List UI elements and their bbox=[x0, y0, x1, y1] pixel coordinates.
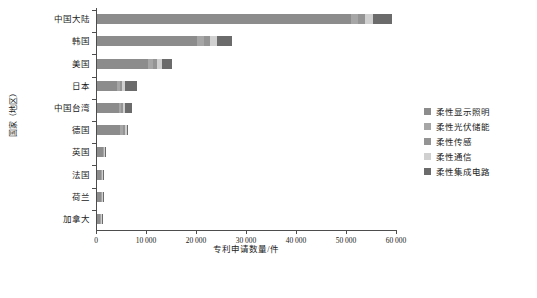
legend-swatch-icon bbox=[424, 153, 431, 160]
x-axis-tick bbox=[296, 230, 297, 234]
bar-segment bbox=[97, 125, 120, 135]
y-axis-tick bbox=[92, 143, 96, 144]
bar-segment bbox=[217, 36, 233, 46]
legend-swatch-icon bbox=[424, 168, 431, 175]
legend-swatch-icon bbox=[424, 108, 431, 115]
x-axis-tick bbox=[396, 230, 397, 234]
bar-segment bbox=[373, 14, 392, 24]
bar-segment bbox=[103, 192, 104, 202]
y-axis-category-label: 德国 bbox=[72, 125, 90, 135]
legend-item[interactable]: 柔性通信 bbox=[424, 149, 490, 164]
bar-row bbox=[97, 81, 137, 91]
bar-segment bbox=[125, 103, 132, 113]
bar-segment bbox=[97, 103, 119, 113]
y-axis-tick bbox=[92, 99, 96, 100]
x-axis-tick bbox=[146, 230, 147, 234]
legend-label: 柔性集成电路 bbox=[436, 167, 490, 177]
bar-segment bbox=[365, 14, 373, 24]
bar-row bbox=[97, 170, 103, 180]
bar-row bbox=[97, 214, 102, 224]
y-axis-category-label: 中国大陆 bbox=[54, 14, 90, 24]
bar-segment bbox=[197, 36, 205, 46]
y-axis-tick bbox=[92, 54, 96, 55]
y-axis-category-label: 英国 bbox=[72, 147, 90, 157]
x-axis-title: 专利申请数量/件 bbox=[96, 244, 396, 254]
bar-row bbox=[97, 192, 103, 202]
y-axis-tick bbox=[92, 77, 96, 78]
y-axis-title: 国家（地区） bbox=[9, 73, 19, 153]
legend-label: 柔性传感 bbox=[436, 137, 472, 147]
bar-segment bbox=[351, 14, 359, 24]
y-axis-category-label: 日本 bbox=[72, 81, 90, 91]
y-axis-tick bbox=[92, 165, 96, 166]
y-axis-tick bbox=[92, 32, 96, 33]
bar-segment bbox=[358, 14, 365, 24]
y-axis-tick bbox=[92, 210, 96, 211]
bar-segment bbox=[162, 59, 173, 69]
y-axis-category-label: 荷兰 bbox=[72, 192, 90, 202]
plot-area: 中国大陆韩国美国日本中国台湾德国英国法国荷兰加拿大 010 00020 0003… bbox=[96, 8, 396, 230]
bar-row bbox=[97, 125, 128, 135]
legend-label: 柔性光伏储能 bbox=[436, 122, 490, 132]
legend-item[interactable]: 柔性传感 bbox=[424, 134, 490, 149]
x-axis-tick bbox=[246, 230, 247, 234]
legend-label: 柔性通信 bbox=[436, 152, 472, 162]
stacked-bar-chart: 国家（地区） 中国大陆韩国美国日本中国台湾德国英国法国荷兰加拿大 010 000… bbox=[0, 0, 537, 298]
bar-segment bbox=[125, 81, 137, 91]
legend-swatch-icon bbox=[424, 123, 431, 130]
y-axis-category-label: 中国台湾 bbox=[54, 103, 90, 113]
y-axis-category-label: 加拿大 bbox=[63, 214, 90, 224]
bar-row bbox=[97, 59, 172, 69]
y-axis-category-label: 韩国 bbox=[72, 36, 90, 46]
bar-segment bbox=[127, 125, 128, 135]
legend-item[interactable]: 柔性显示照明 bbox=[424, 104, 490, 119]
bar-segment bbox=[105, 147, 106, 157]
bar-row bbox=[97, 147, 105, 157]
legend-item[interactable]: 柔性集成电路 bbox=[424, 164, 490, 179]
bar-segment bbox=[103, 170, 104, 180]
y-axis-tick bbox=[92, 10, 96, 11]
bar-segment bbox=[97, 59, 148, 69]
bar-segment bbox=[97, 81, 117, 91]
bar-segment bbox=[97, 36, 197, 46]
bar-row bbox=[97, 14, 392, 24]
x-axis-tick bbox=[96, 230, 97, 234]
bar-row bbox=[97, 103, 132, 113]
legend-swatch-icon bbox=[424, 138, 431, 145]
chart-legend: 柔性显示照明柔性光伏储能柔性传感柔性通信柔性集成电路 bbox=[424, 104, 490, 179]
x-axis-tick bbox=[346, 230, 347, 234]
bar-row bbox=[97, 36, 232, 46]
bar-segment bbox=[97, 14, 351, 24]
y-axis-tick bbox=[92, 121, 96, 122]
y-axis-tick bbox=[92, 188, 96, 189]
legend-label: 柔性显示照明 bbox=[436, 107, 490, 117]
y-axis-category-label: 法国 bbox=[72, 170, 90, 180]
x-axis-tick bbox=[196, 230, 197, 234]
y-axis-category-label: 美国 bbox=[72, 59, 90, 69]
legend-item[interactable]: 柔性光伏储能 bbox=[424, 119, 490, 134]
